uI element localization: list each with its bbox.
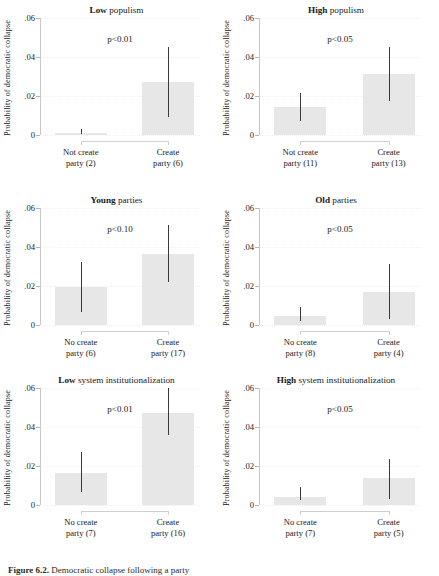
error-bar [389, 47, 390, 101]
y-axis-label-text: Probability of democratic collapse [3, 390, 12, 506]
x-axis-tick [300, 141, 301, 145]
x-axis-category-label: No createparty (7) [64, 517, 97, 539]
y-axis-label: Probability of democratic collapse [0, 196, 14, 339]
x-axis-tick [81, 331, 82, 335]
gridline [41, 208, 200, 209]
x-axis-tick [168, 511, 169, 515]
y-axis-tick [255, 388, 259, 389]
plot-area: 0.02.04.06p<0.01 [40, 18, 200, 135]
y-axis-tick-label: .06 [243, 203, 254, 213]
x-axis-tick [81, 141, 82, 145]
category-label-line1: Create [153, 147, 183, 158]
category-label-line2: party (7) [64, 528, 97, 539]
category-label-line2: party (4) [374, 348, 404, 359]
panel-title: High system institutionalization [237, 374, 435, 386]
y-axis-tick-label: 0 [250, 130, 254, 140]
y-axis-label: Probability of democratic collapse [219, 376, 233, 519]
y-axis-tick [255, 427, 259, 428]
x-axis-tick [389, 511, 390, 515]
panel-low-system-institutionalization: Low system institutionalizationProbabili… [0, 370, 219, 556]
category-label-line2: party (5) [374, 528, 404, 539]
gridline [260, 18, 421, 19]
y-axis-tick [36, 96, 40, 97]
y-axis-tick [255, 208, 259, 209]
panel-title-strong: Old [315, 195, 330, 205]
gridline [260, 466, 421, 467]
panel-high-populism: High populismProbability of democratic c… [219, 0, 439, 190]
gridline [260, 135, 421, 136]
panel-title: Low system institutionalization [18, 374, 215, 386]
y-axis-tick-label: .04 [24, 52, 35, 62]
category-label-line1: No create [64, 337, 97, 348]
error-bar [81, 452, 82, 492]
y-axis-tick-label: .02 [24, 281, 35, 291]
y-axis-tick-label: .02 [243, 281, 254, 291]
y-axis-line [259, 18, 260, 135]
category-label-line1: Create [372, 147, 406, 158]
panel-title-normal: parties [116, 195, 143, 205]
gridline [260, 208, 421, 209]
gridline [260, 286, 421, 287]
category-label-line2: party (13) [372, 158, 406, 169]
y-axis-tick-label: 0 [31, 500, 35, 510]
category-label-line2: party (2) [63, 158, 99, 169]
x-axis-line [81, 511, 168, 512]
y-axis-label-text: Probability of democratic collapse [222, 390, 231, 506]
y-axis-tick-label: 0 [250, 500, 254, 510]
y-axis-tick [36, 208, 40, 209]
panel-title-strong: Low [58, 375, 75, 385]
y-axis-tick-label: .04 [24, 242, 35, 252]
category-label-line2: party (11) [283, 158, 319, 169]
error-bar [81, 262, 82, 313]
x-axis-line [300, 141, 388, 142]
y-axis-tick [255, 247, 259, 248]
panel-grid: Low populismProbability of democratic co… [0, 0, 439, 556]
x-axis-tick [168, 141, 169, 145]
x-axis-tick [81, 511, 82, 515]
gridline [41, 388, 200, 389]
y-axis-tick [36, 427, 40, 428]
category-label-line1: Create [151, 517, 185, 528]
y-axis-label-text: Probability of democratic collapse [3, 20, 12, 136]
y-axis-line [259, 208, 260, 325]
y-axis-tick [255, 18, 259, 19]
x-axis-tick [389, 331, 390, 335]
category-label-line1: No create [64, 517, 97, 528]
category-label-line1: No create [284, 337, 317, 348]
caption-text: Democratic collapse following a party [49, 565, 189, 575]
x-axis-line [300, 331, 388, 332]
category-label-line2: party (7) [284, 528, 317, 539]
category-label-line2: party (8) [284, 348, 317, 359]
y-axis-tick [36, 505, 40, 506]
category-label-line1: Not create [63, 147, 99, 158]
x-axis-line [300, 511, 388, 512]
x-axis-category-label: No createparty (6) [64, 337, 97, 359]
plot-area: 0.02.04.06p<0.01 [40, 388, 200, 505]
y-axis-tick-label: 0 [31, 320, 35, 330]
y-axis-tick [255, 325, 259, 326]
p-value-annotation: p<0.05 [327, 404, 352, 414]
gridline [41, 57, 200, 58]
y-axis-label-text: Probability of democratic collapse [3, 210, 12, 326]
p-value-annotation: p<0.10 [107, 224, 132, 234]
x-axis-tick [389, 141, 390, 145]
y-axis-tick-label: .02 [24, 461, 35, 471]
panel-title-normal: populism [327, 5, 364, 15]
y-axis-label: Probability of democratic collapse [0, 376, 14, 519]
category-label-line2: party (16) [151, 528, 185, 539]
category-label-line1: Create [374, 337, 404, 348]
error-bar [168, 388, 169, 435]
y-axis-line [40, 18, 41, 135]
plot-area: 0.02.04.06p<0.05 [259, 208, 421, 325]
y-axis-tick-label: 0 [31, 130, 35, 140]
y-axis-tick-label: .04 [243, 242, 254, 252]
category-label-line2: party (17) [151, 348, 185, 359]
y-axis-tick [36, 388, 40, 389]
panel-title: High populism [237, 4, 435, 16]
y-axis-tick-label: .04 [243, 422, 254, 432]
y-axis-tick [255, 286, 259, 287]
category-label-line1: Create [151, 337, 185, 348]
x-axis-category-label: Createparty (5) [374, 517, 404, 539]
gridline [41, 505, 200, 506]
y-axis-label: Probability of democratic collapse [0, 6, 14, 149]
